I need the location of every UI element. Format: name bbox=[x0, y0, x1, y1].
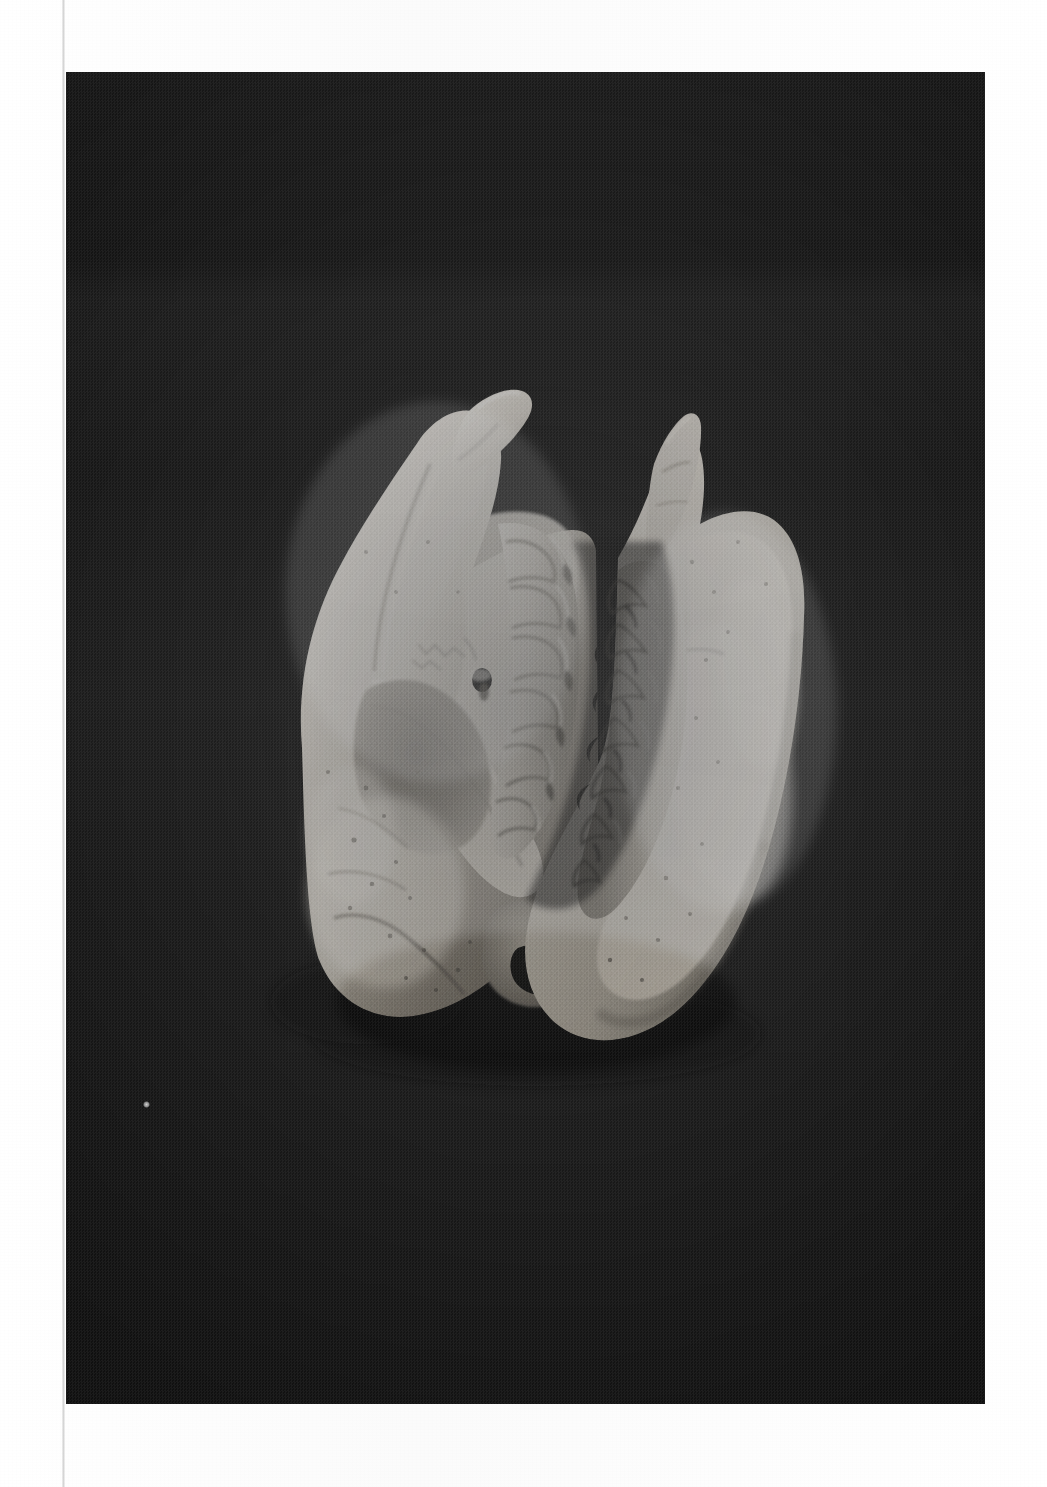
skull-specimen-photograph bbox=[66, 72, 985, 1404]
scan-gutter-line bbox=[62, 0, 65, 1487]
specimen-grain bbox=[286, 392, 846, 1052]
page-sheet bbox=[0, 0, 1047, 1487]
photographic-plate bbox=[66, 72, 985, 1404]
